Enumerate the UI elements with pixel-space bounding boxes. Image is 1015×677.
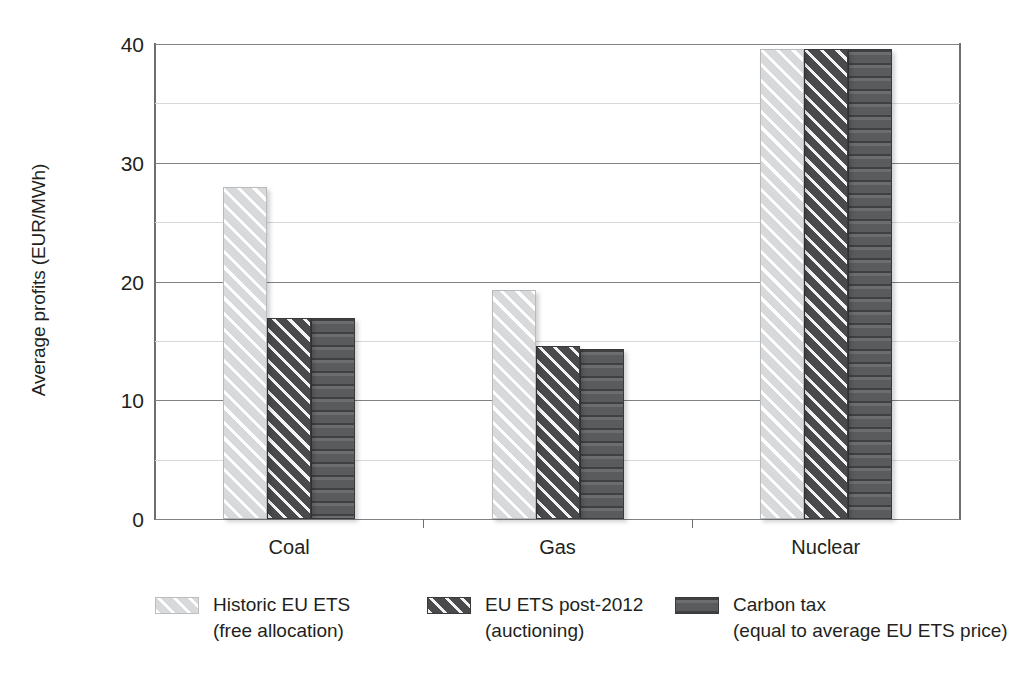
bar-nuclear-series-3[interactable] [848, 49, 892, 519]
bar-face [536, 346, 580, 519]
legend-swatch-1 [155, 597, 199, 614]
bar-face [804, 49, 848, 519]
legend-label-line2: (equal to average EU ETS price) [733, 618, 1008, 644]
chart-legend: Historic EU ETS(free allocation)EU ETS p… [155, 592, 995, 662]
plot-area [155, 44, 960, 519]
y-tick-label-20: 20 [88, 271, 144, 292]
bar-gas-series-1[interactable] [492, 290, 536, 519]
bar-face [492, 290, 536, 519]
legend-label-line1: Historic EU ETS [213, 594, 350, 615]
bar-nuclear-series-2[interactable] [804, 49, 848, 519]
y-axis-title: Average profits (EUR/MWh) [26, 0, 52, 560]
x-axis-label-coal: Coal [189, 536, 389, 559]
bar-face [311, 318, 355, 519]
y-tick-label-40: 40 [88, 34, 144, 55]
legend-swatch-3 [675, 597, 719, 614]
bar-face [848, 49, 892, 519]
legend-swatch-2 [427, 597, 471, 614]
bar-gas-series-2[interactable] [536, 346, 580, 519]
legend-label-line2: (free allocation) [213, 618, 350, 644]
y-tick-label-0: 0 [88, 509, 144, 530]
legend-label-1: Historic EU ETS(free allocation) [213, 592, 350, 644]
bar-nuclear-series-1[interactable] [760, 49, 804, 519]
x-axis-label-gas: Gas [458, 536, 658, 559]
bar-face [580, 349, 624, 519]
x-axis-label-nuclear: Nuclear [726, 536, 926, 559]
legend-label-line1: EU ETS post-2012 [485, 594, 643, 615]
x-axis-tick-1 [423, 519, 424, 528]
bar-face [223, 187, 267, 520]
bar-chart-figure: Average profits (EUR/MWh) 010203040 Coal… [0, 0, 1015, 677]
bar-gas-series-3[interactable] [580, 349, 624, 519]
legend-label-2: EU ETS post-2012(auctioning) [485, 592, 643, 644]
legend-label-line2: (auctioning) [485, 618, 643, 644]
gridline-40 [155, 44, 960, 45]
bar-face [267, 318, 311, 519]
bar-coal-series-1[interactable] [223, 187, 267, 520]
bar-coal-series-3[interactable] [311, 318, 355, 519]
y-tick-label-30: 30 [88, 152, 144, 173]
y-tick-label-10: 10 [88, 390, 144, 411]
bar-face [760, 49, 804, 519]
bar-coal-series-2[interactable] [267, 318, 311, 519]
legend-label-line1: Carbon tax [733, 594, 826, 615]
legend-label-3: Carbon tax(equal to average EU ETS price… [733, 592, 1008, 644]
x-axis-tick-2 [692, 519, 693, 528]
